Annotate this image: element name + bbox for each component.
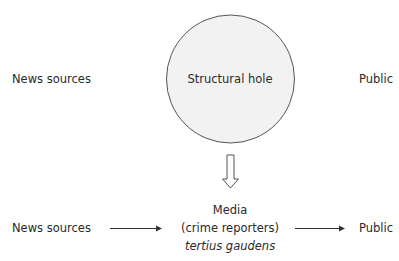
bottom-news-sources-label: News sources bbox=[12, 221, 91, 235]
structural-hole-label: Structural hole bbox=[187, 72, 272, 86]
crime-reporters-label: (crime reporters) bbox=[181, 221, 279, 235]
top-public-label: Public bbox=[359, 72, 393, 86]
top-news-sources-label: News sources bbox=[12, 72, 91, 86]
bottom-public-label: Public bbox=[359, 221, 393, 235]
arrow-media-to-public-icon bbox=[295, 226, 345, 232]
arrow-sources-to-media-icon bbox=[110, 226, 162, 232]
media-label: Media bbox=[213, 203, 248, 217]
tertius-gaudens-label: tertius gaudens bbox=[185, 239, 275, 253]
hollow-down-arrow-icon bbox=[223, 155, 239, 188]
